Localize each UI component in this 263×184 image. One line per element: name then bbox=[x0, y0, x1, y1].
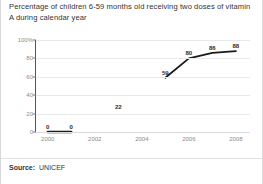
data-label-2003: 22 bbox=[115, 104, 122, 110]
y-tick-mark-60 bbox=[33, 76, 36, 77]
chart-area: 020406080100%200020022004200620080022598… bbox=[9, 34, 256, 150]
y-axis-label-40: 40 bbox=[26, 92, 33, 98]
gridline-y-60 bbox=[36, 77, 250, 78]
y-axis-label-100: 100% bbox=[18, 37, 33, 43]
source-label: Source: bbox=[9, 164, 35, 171]
source-value: UNICEF bbox=[39, 164, 65, 171]
x-axis-label-2006: 2006 bbox=[182, 136, 195, 142]
x-axis-label-2000: 2000 bbox=[41, 136, 54, 142]
y-tick-mark-100 bbox=[33, 40, 36, 41]
data-label-2000: 0 bbox=[46, 124, 49, 130]
data-label-2008: 88 bbox=[233, 43, 240, 49]
gridline-y-80 bbox=[36, 58, 250, 59]
data-label-2006: 80 bbox=[186, 50, 193, 56]
y-axis-label-80: 80 bbox=[26, 55, 33, 61]
y-axis-label-20: 20 bbox=[26, 111, 33, 117]
source-note: Source:UNICEF bbox=[9, 164, 65, 171]
y-tick-mark-0 bbox=[33, 132, 36, 133]
chart-card: Percentage of children 6-59 months old r… bbox=[0, 0, 263, 184]
series-segment-1 bbox=[165, 51, 236, 78]
gridline-y-0 bbox=[36, 132, 250, 133]
plot-region: 020406080100%200020022004200620080022598… bbox=[35, 40, 250, 132]
gridline-y-20 bbox=[36, 114, 250, 115]
data-label-2005: 59 bbox=[162, 70, 169, 76]
x-axis-label-2004: 2004 bbox=[135, 136, 148, 142]
footer-divider bbox=[1, 158, 262, 159]
data-label-2001: 0 bbox=[70, 124, 73, 130]
series-line bbox=[36, 40, 250, 132]
y-tick-mark-80 bbox=[33, 58, 36, 59]
gridline-y-100 bbox=[36, 40, 250, 41]
y-axis-label-60: 60 bbox=[26, 74, 33, 80]
x-axis-label-2002: 2002 bbox=[88, 136, 101, 142]
chart-title: Percentage of children 6-59 months old r… bbox=[9, 2, 254, 23]
y-axis-label-0: 0 bbox=[30, 129, 33, 135]
y-tick-mark-40 bbox=[33, 95, 36, 96]
data-label-2007: 86 bbox=[209, 45, 216, 51]
y-tick-mark-20 bbox=[33, 113, 36, 114]
x-axis-label-2008: 2008 bbox=[229, 136, 242, 142]
gridline-y-40 bbox=[36, 95, 250, 96]
